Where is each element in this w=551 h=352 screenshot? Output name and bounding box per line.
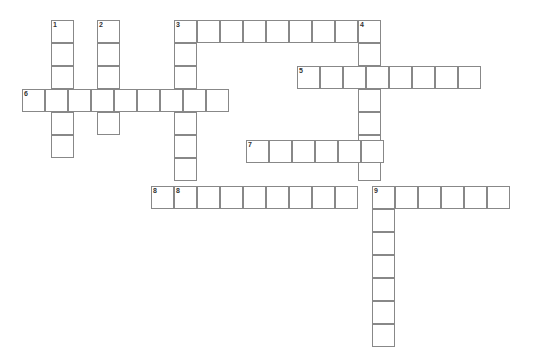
crossword-cell[interactable]	[97, 112, 120, 135]
crossword-cell[interactable]	[361, 140, 384, 163]
cell-letter	[152, 187, 173, 208]
crossword-cell[interactable]	[137, 89, 160, 112]
crossword-cell[interactable]	[372, 301, 395, 324]
crossword-cell[interactable]	[358, 43, 381, 66]
crossword-cell[interactable]	[160, 89, 183, 112]
cell-letter	[98, 113, 119, 134]
crossword-cell[interactable]	[366, 66, 389, 89]
cell-letter	[442, 187, 463, 208]
cell-letter	[175, 44, 196, 65]
cell-letter	[359, 44, 380, 65]
crossword-cell[interactable]	[243, 20, 266, 43]
cell-letter	[373, 279, 394, 300]
crossword-cell-numbered[interactable]: 1	[51, 20, 74, 43]
cell-letter	[321, 67, 342, 88]
crossword-cell[interactable]	[464, 186, 487, 209]
crossword-cell[interactable]	[51, 43, 74, 66]
crossword-cell[interactable]	[220, 20, 243, 43]
crossword-cell[interactable]	[338, 140, 361, 163]
crossword-cell[interactable]	[183, 89, 206, 112]
crossword-grid[interactable]: 1234856789	[0, 0, 551, 352]
crossword-cell[interactable]	[51, 66, 74, 89]
cell-letter	[247, 141, 268, 162]
crossword-cell[interactable]	[269, 140, 292, 163]
crossword-cell[interactable]	[435, 66, 458, 89]
crossword-cell[interactable]	[45, 89, 68, 112]
crossword-cell-numbered[interactable]: 3	[174, 20, 197, 43]
crossword-cell[interactable]	[266, 20, 289, 43]
cell-letter	[244, 187, 265, 208]
crossword-cell[interactable]	[289, 20, 312, 43]
cell-letter	[98, 44, 119, 65]
crossword-cell-numbered[interactable]: 8	[174, 186, 197, 209]
crossword-cell[interactable]	[174, 66, 197, 89]
crossword-cell[interactable]	[315, 140, 338, 163]
crossword-cell[interactable]	[395, 186, 418, 209]
crossword-cell[interactable]	[206, 89, 229, 112]
crossword-cell[interactable]	[197, 186, 220, 209]
crossword-cell-numbered[interactable]: 7	[246, 140, 269, 163]
crossword-cell[interactable]	[266, 186, 289, 209]
cell-letter	[313, 21, 334, 42]
crossword-cell[interactable]	[243, 186, 266, 209]
crossword-cell[interactable]	[292, 140, 315, 163]
crossword-cell-numbered[interactable]: 6	[22, 89, 45, 112]
crossword-cell[interactable]	[372, 324, 395, 347]
cell-letter	[362, 141, 383, 162]
cell-letter	[52, 67, 73, 88]
crossword-cell[interactable]	[174, 135, 197, 158]
crossword-cell[interactable]	[312, 186, 335, 209]
crossword-cell[interactable]	[458, 66, 481, 89]
crossword-cell[interactable]	[114, 89, 137, 112]
crossword-cell[interactable]	[68, 89, 91, 112]
crossword-cell[interactable]	[91, 89, 114, 112]
crossword-cell[interactable]	[372, 278, 395, 301]
crossword-cell[interactable]	[220, 186, 243, 209]
cell-letter	[373, 325, 394, 346]
crossword-cell[interactable]	[312, 20, 335, 43]
crossword-cell[interactable]	[487, 186, 510, 209]
crossword-cell[interactable]	[343, 66, 366, 89]
cell-letter	[98, 21, 119, 42]
crossword-cell[interactable]	[358, 112, 381, 135]
cell-letter	[488, 187, 509, 208]
crossword-cell[interactable]	[174, 43, 197, 66]
crossword-cell[interactable]	[174, 158, 197, 181]
crossword-cell[interactable]	[372, 232, 395, 255]
crossword-cell[interactable]	[197, 20, 220, 43]
crossword-cell-numbered[interactable]: 9	[372, 186, 395, 209]
crossword-cell[interactable]	[441, 186, 464, 209]
crossword-cell-numbered[interactable]: 4	[358, 20, 381, 43]
cell-letter	[175, 21, 196, 42]
crossword-cell[interactable]	[174, 112, 197, 135]
crossword-cell[interactable]	[289, 186, 312, 209]
crossword-cell[interactable]	[97, 66, 120, 89]
cell-letter	[373, 187, 394, 208]
crossword-cell-numbered[interactable]: 5	[297, 66, 320, 89]
cell-letter	[367, 67, 388, 88]
cell-letter	[339, 141, 360, 162]
cell-letter	[198, 187, 219, 208]
crossword-cell-numbered[interactable]: 8	[151, 186, 174, 209]
crossword-cell-numbered[interactable]: 2	[97, 20, 120, 43]
cell-letter	[69, 90, 90, 111]
crossword-cell[interactable]	[372, 209, 395, 232]
crossword-cell[interactable]	[372, 255, 395, 278]
cell-letter	[313, 187, 334, 208]
crossword-cell[interactable]	[335, 20, 358, 43]
crossword-cell[interactable]	[51, 112, 74, 135]
crossword-cell[interactable]	[335, 186, 358, 209]
cell-letter	[298, 67, 319, 88]
crossword-cell[interactable]	[51, 135, 74, 158]
crossword-cell[interactable]	[418, 186, 441, 209]
cell-letter	[138, 90, 159, 111]
crossword-cell[interactable]	[358, 89, 381, 112]
crossword-cell[interactable]	[412, 66, 435, 89]
crossword-cell[interactable]	[389, 66, 412, 89]
crossword-cell[interactable]	[97, 43, 120, 66]
cell-letter	[92, 90, 113, 111]
cell-letter	[413, 67, 434, 88]
cell-letter	[52, 44, 73, 65]
crossword-cell[interactable]	[320, 66, 343, 89]
cell-letter	[175, 159, 196, 180]
